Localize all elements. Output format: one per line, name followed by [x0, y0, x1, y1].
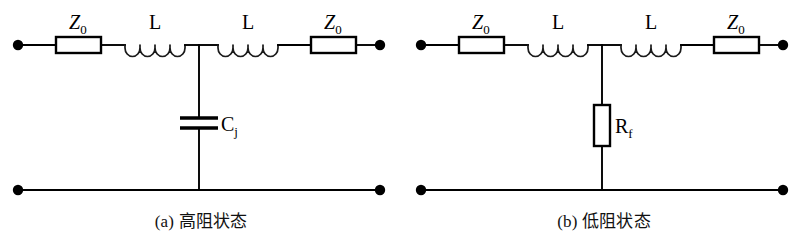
inductor-right: [218, 45, 278, 57]
label-z0-left: Z0: [472, 11, 490, 37]
terminal-bottom-right: [778, 185, 788, 195]
caption-b: (b) 低阻状态: [403, 207, 805, 232]
inductor-right: [621, 45, 681, 57]
inductor-left: [528, 45, 588, 57]
terminal-bottom-left: [13, 185, 23, 195]
terminal-top-left: [416, 40, 426, 50]
inductor-left: [125, 45, 185, 57]
resistor-z0-left: [56, 37, 101, 53]
terminal-bottom-right: [375, 185, 385, 195]
resistor-z0-right: [714, 37, 759, 53]
figure-root: Z0 L L Z0 Cj (a) 高阻状态: [0, 0, 805, 247]
label-z0-left: Z0: [69, 11, 87, 37]
resistor-rf: [594, 105, 610, 146]
terminal-bottom-left: [416, 185, 426, 195]
label-inductor-right: L: [242, 11, 254, 33]
label-inductor-right: L: [645, 11, 657, 33]
caption-a: (a) 高阻状态: [0, 207, 402, 232]
circuit-panel-a: Z0 L L Z0 Cj (a) 高阻状态: [0, 0, 402, 247]
label-z0-right: Z0: [727, 11, 745, 37]
resistor-z0-right: [311, 37, 356, 53]
label-inductor-left: L: [552, 11, 564, 33]
resistor-z0-left: [459, 37, 504, 53]
label-z0-right: Z0: [324, 11, 342, 37]
label-resistor-rf: Rf: [615, 115, 633, 141]
circuit-panel-b: Z0 L L Z0 Rf (b) 低阻状态: [403, 0, 805, 247]
terminal-top-right: [778, 40, 788, 50]
terminal-top-right: [375, 40, 385, 50]
terminal-top-left: [13, 40, 23, 50]
label-inductor-left: L: [149, 11, 161, 33]
label-capacitor-cj: Cj: [221, 113, 238, 139]
